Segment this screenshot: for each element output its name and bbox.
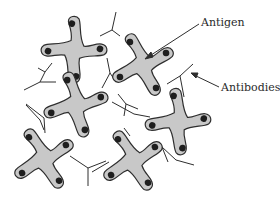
antibodies-label: Antibodies (221, 81, 280, 94)
antibody (38, 63, 52, 82)
antibody (118, 94, 138, 116)
antibodies-arrow-head (191, 73, 198, 78)
antigen (109, 30, 177, 98)
antibody (26, 105, 44, 130)
antibody (100, 12, 120, 36)
antibody (70, 156, 106, 186)
antibodies-arrow-line (194, 75, 219, 87)
antigen (8, 122, 80, 195)
antigen-label: Antigen (201, 16, 245, 29)
antigen (42, 70, 110, 138)
antibody (112, 102, 150, 117)
antibody (24, 82, 56, 90)
antigens-group (8, 9, 217, 197)
antigen (97, 124, 169, 197)
antigen-antibody-diagram (0, 0, 280, 199)
